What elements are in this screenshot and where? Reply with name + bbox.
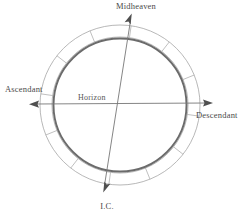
label-ic: I.C. xyxy=(100,201,114,211)
astrology-chart-diagram: Midheaven Ascendant Descendant I.C. Hori… xyxy=(0,0,243,217)
chart-wheel-canvas: Midheaven Ascendant Descendant I.C. Hori… xyxy=(0,0,243,217)
label-horizon: Horizon xyxy=(78,93,106,102)
descendant-arrowhead xyxy=(203,99,213,106)
label-descendant: Descendant xyxy=(196,110,238,120)
label-midheaven: Midheaven xyxy=(116,1,157,11)
ascendant-arrowhead xyxy=(29,101,39,108)
midheaven-arrowhead xyxy=(125,14,132,25)
label-ascendant: Ascendant xyxy=(5,84,43,94)
main-chart-circle xyxy=(54,39,187,172)
